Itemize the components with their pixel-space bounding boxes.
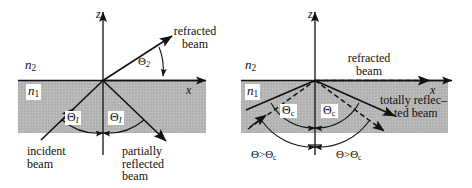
- left-theta2-symbol: Θ: [138, 55, 146, 67]
- right-panel-group: [241, 12, 452, 155]
- right-z-axis-label: z: [308, 8, 313, 21]
- figure-canvas: z x n2 n1 refractedbeam Θ2 ΘI ΘI inciden…: [0, 0, 472, 188]
- right-supercritical-right-text: Θ>Θ: [336, 148, 358, 160]
- left-lower-medium-label: n1: [26, 84, 41, 100]
- right-supercritical-label-right: Θ>Θc: [336, 149, 362, 162]
- left-n1-subscript: 1: [35, 89, 40, 99]
- left-refraction-angle-label: Θ2: [138, 56, 150, 69]
- left-reflection-angle-label: ΘI: [108, 111, 124, 125]
- left-reflected-beam-line3: beam: [122, 169, 148, 183]
- left-refracted-beam-label: refractedbeam: [160, 25, 230, 50]
- right-thetac-left-subscript: c: [291, 108, 295, 118]
- left-n2-subscript: 2: [32, 63, 37, 73]
- right-upper-medium-label: n2: [245, 58, 256, 74]
- right-critical-angle-label-right: Θc: [321, 104, 338, 118]
- right-critical-angle-label-left: Θc: [280, 104, 297, 118]
- left-z-axis-label: z: [96, 8, 101, 21]
- left-thetaI-in-symbol: Θ: [67, 110, 76, 124]
- right-n1-subscript: 1: [254, 89, 259, 99]
- right-thetac-right-subscript: c: [332, 108, 336, 118]
- right-thetac-left-symbol: Θ: [282, 103, 291, 117]
- left-thetaI-ref-subscript: I: [119, 115, 122, 125]
- left-x-axis-label: x: [186, 84, 191, 97]
- right-totally-reflected-beam-label: totally reflec–ted beam: [380, 94, 447, 119]
- right-supercritical-right-subscript: c: [358, 153, 362, 162]
- left-upper-medium-label: n2: [25, 58, 36, 74]
- left-thetaI-in-subscript: I: [76, 115, 79, 125]
- right-n2-subscript: 2: [252, 63, 257, 73]
- right-refracted-beam-line2: beam: [356, 64, 382, 78]
- left-refracted-beam-line2: beam: [182, 37, 208, 51]
- right-totally-reflected-line1: totally reflec–: [380, 93, 447, 107]
- right-thetac-right-symbol: Θ: [323, 103, 332, 117]
- right-supercritical-left-text: Θ>Θ: [251, 148, 273, 160]
- right-lower-medium-label: n1: [245, 84, 260, 100]
- right-totally-reflected-line2: ted beam: [380, 107, 438, 120]
- right-supercritical-label-left: Θ>Θc: [251, 149, 277, 162]
- right-refracted-beam-label: refractedbeam: [330, 52, 408, 77]
- left-theta2-subscript: 2: [146, 60, 150, 69]
- left-incident-beam-line2: beam: [27, 157, 53, 171]
- left-refraction-angle-arc: [159, 47, 163, 76]
- left-reflected-beam-label: partiallyreflectedbeam: [122, 145, 164, 183]
- left-incidence-angle-label: ΘI: [65, 111, 81, 125]
- right-supercritical-left-subscript: c: [273, 153, 277, 162]
- left-thetaI-ref-symbol: Θ: [110, 110, 119, 124]
- left-incident-beam-label: incidentbeam: [27, 145, 66, 170]
